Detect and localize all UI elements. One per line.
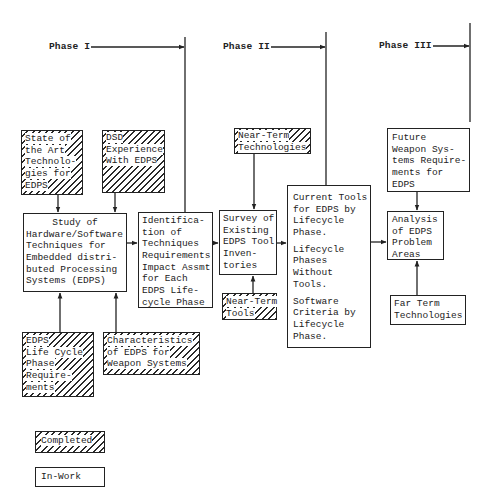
box-line: Identifica- xyxy=(142,215,210,227)
box-line: of EDPS for xyxy=(107,347,170,358)
box-line: Lifecycle xyxy=(293,215,368,227)
box-line: Near-Term xyxy=(226,296,277,307)
box-line: Techniques xyxy=(142,238,210,250)
box-line: for Each xyxy=(142,273,210,285)
box-line: Lifecycle xyxy=(293,319,368,331)
box-line: EDPS xyxy=(392,179,467,191)
box-line: Tools. xyxy=(293,279,368,291)
box-line: buted Processing xyxy=(26,264,124,276)
box-line: Current Tools xyxy=(293,192,368,204)
box-line: Criteria by xyxy=(293,307,368,319)
box-current-tools-by-lifecycle: Current Tools for EDPS by Lifecycle Phas… xyxy=(287,185,371,348)
box-line: Characteristics xyxy=(107,335,193,346)
box-line: Require- xyxy=(26,370,72,381)
box-line: Areas xyxy=(392,249,441,261)
box-line: Technolo- xyxy=(25,156,76,167)
box-line: Experience xyxy=(106,144,163,155)
box-line: of EDPS xyxy=(392,226,441,238)
box-line: EDPS Tool xyxy=(223,236,274,248)
box-line: Systems (EDPS) xyxy=(26,275,124,287)
box-line: Future xyxy=(392,132,467,144)
box-line: Lifecycle xyxy=(293,244,368,256)
box-line: EDPS xyxy=(26,335,49,346)
legend-in-work: In-Work xyxy=(35,467,105,487)
phase-1-label: Phase I xyxy=(49,41,90,53)
box-line: Inven- xyxy=(223,248,274,260)
box-analysis-of-edps-problem-areas: Analysis of EDPS Problem Areas xyxy=(387,211,444,260)
box-line: Near-Term xyxy=(238,130,289,141)
box-line: Technologies xyxy=(238,142,306,153)
box-line: the Art xyxy=(25,145,65,156)
box-line: EDPS xyxy=(25,180,48,191)
box-line: ments for xyxy=(392,167,467,179)
legend-in-work-label: In-Work xyxy=(41,471,100,483)
box-line: Impact Assmt xyxy=(142,262,210,274)
box-line: tories xyxy=(223,260,274,272)
box-line: Without xyxy=(293,267,368,279)
box-line: cycle Phase xyxy=(142,297,210,309)
box-identification-of-techniques: Identifica- tion of Techniques Requireme… xyxy=(138,212,213,308)
legend-completed: Completed xyxy=(35,431,105,453)
box-study-hw-sw-techniques: Study of Hardware/Software Techniques fo… xyxy=(23,213,127,292)
box-line: Technologies xyxy=(394,310,463,322)
box-line: gies for xyxy=(25,168,71,179)
box-line: Tools xyxy=(226,308,255,319)
box-line: ments xyxy=(26,382,55,393)
phase-3-label: Phase III xyxy=(379,40,432,52)
box-line: Weapon Systems xyxy=(107,358,187,369)
box-state-of-art-technologies: State of the Art Technolo- gies for EDPS xyxy=(21,130,83,195)
box-line: State of xyxy=(25,133,71,144)
box-line: Phase xyxy=(26,358,55,369)
box-far-term-technologies: Far Term Technologies xyxy=(390,295,466,325)
box-line: Existing xyxy=(223,225,274,237)
box-line: Phase. xyxy=(293,227,368,239)
box-near-term-tools: Near-Term Tools xyxy=(222,293,277,320)
box-line: EDPS Life- xyxy=(142,285,210,297)
box-line: With EDPS xyxy=(106,155,157,166)
legend-completed-label: Completed xyxy=(41,435,92,446)
box-line: DSD xyxy=(106,132,123,143)
box-line: Far Term xyxy=(394,298,463,310)
box-line: Weapon Sys- xyxy=(392,144,467,156)
box-line: Requirements xyxy=(142,250,210,262)
box-near-term-technologies: Near-Term Technologies xyxy=(234,128,311,154)
box-line: Techniques for xyxy=(26,240,124,252)
box-line: Problem xyxy=(392,237,441,249)
box-line: Analysis xyxy=(392,214,441,226)
box-dsd-experience: DSD Experience With EDPS xyxy=(102,130,165,193)
box-line: for EDPS by xyxy=(293,204,368,216)
box-line: Study of xyxy=(26,217,124,229)
box-line: tems Require- xyxy=(392,155,467,167)
box-survey-tool-inventories: Survey of Existing EDPS Tool Inven- tori… xyxy=(219,210,277,275)
box-line: Phases xyxy=(293,255,368,267)
box-edps-life-cycle-phase-requirements: EDPS Life Cycle Phase Require- ments xyxy=(22,332,94,397)
box-line: Survey of xyxy=(223,213,274,225)
box-line: tion of xyxy=(142,227,210,239)
box-line: Software xyxy=(293,296,368,308)
box-line: Life Cycle xyxy=(26,347,83,358)
box-line: Phase. xyxy=(293,331,368,343)
box-line: Hardware/Software xyxy=(26,229,124,241)
box-line: Embedded distri- xyxy=(26,252,124,264)
box-future-weapon-systems-requirements: Future Weapon Sys- tems Require- ments f… xyxy=(387,128,470,192)
phase-2-label: Phase II xyxy=(223,41,270,53)
box-characteristics-of-edps: Characteristics of EDPS for Weapon Syste… xyxy=(103,332,200,375)
